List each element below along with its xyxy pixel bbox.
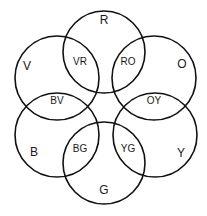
- intersection-label-vr: VR: [73, 56, 87, 67]
- label-y: Y: [177, 146, 185, 160]
- label-r: R: [100, 13, 109, 27]
- intersection-label-yg: YG: [121, 143, 136, 154]
- intersection-label-oy: OY: [147, 95, 162, 106]
- label-v: V: [23, 59, 31, 73]
- intersection-label-bv: BV: [50, 95, 64, 106]
- label-g: G: [99, 183, 108, 197]
- intersection-label-bg: BG: [73, 143, 88, 154]
- label-o: O: [177, 57, 186, 71]
- intersection-label-ro: RO: [121, 56, 136, 67]
- venn-diagram: RVOBYGVRROBVOYBGYG: [0, 0, 207, 216]
- circle-o: [112, 36, 196, 120]
- label-b: B: [30, 145, 38, 159]
- circle-v: [15, 36, 99, 120]
